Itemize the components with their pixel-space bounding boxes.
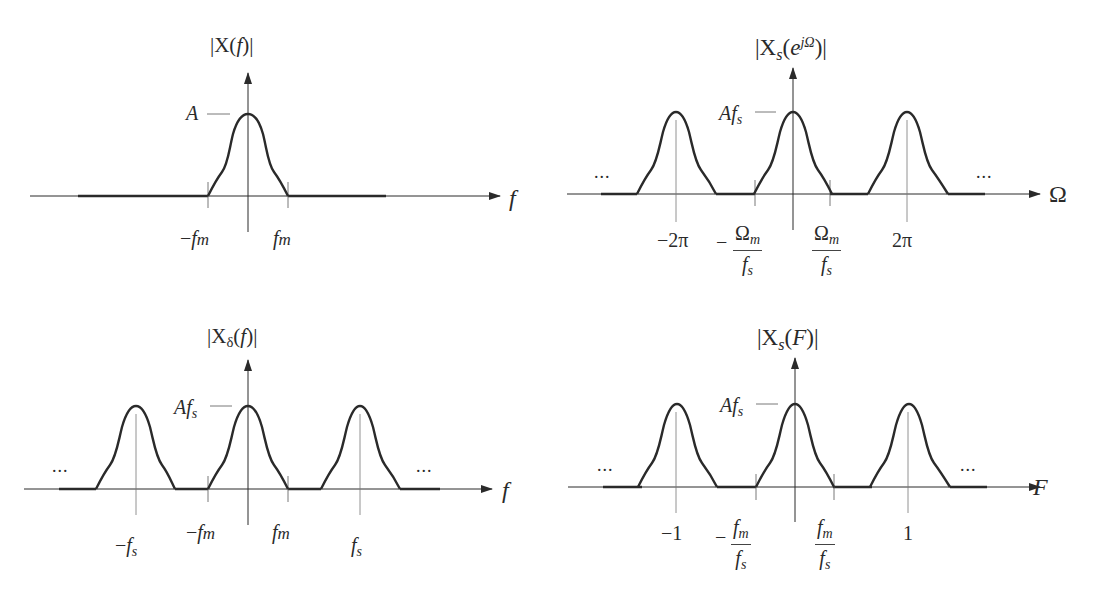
panel4-frac-minus: − [715,527,726,547]
panel2-title: |Xs(ejΩ)| [755,35,827,63]
panel3-tick-neg-fs: −fs [115,535,137,559]
spectra-diagram [0,0,1095,593]
panel3-peak-label: Afs [174,397,197,421]
panel-xdelta-f [24,360,492,525]
panel1-tick-neg-fm: −fm [180,228,209,248]
panel4-x-axis-label: F [1033,475,1048,499]
panel3-title: |Xδ(f)| [207,326,257,350]
panel1-tick-fm: fm [273,228,291,248]
panel3-tick-fm: fm [272,522,290,542]
panel2-ellipsis-right: ... [976,163,993,181]
panel2-x-axis-label: Ω [1049,182,1067,206]
panel2-tick-neg-omega-m-over-fs: Ωm fs [733,223,762,279]
panel4-tick-neg-fm-over-fs: fm fs [731,517,751,573]
panel4-ellipsis-right: ... [960,456,977,474]
panel-x-f [30,73,500,232]
panel3-tick-neg-fm: −fm [186,522,215,542]
panel4-title: |Xs(F)| [757,326,818,353]
panel4-tick-fm-over-fs: fm fs [815,517,835,573]
panel2-tick-2pi: 2π [892,230,912,250]
panel3-tick-fs: fs [351,535,362,559]
panel2-ellipsis-left: ... [594,163,611,181]
panel2-tick-neg-2pi: −2π [657,230,688,250]
panel4-tick-1: 1 [903,523,913,543]
panel3-ellipsis-right: ... [416,457,433,475]
panel-xs-F [568,358,1040,522]
panel3-x-axis-label: f [502,478,509,502]
panel3-ellipsis-left: ... [52,457,69,475]
panel1-x-axis-label: f [509,186,516,210]
panel1-title: |X(f)| [210,35,253,56]
spectrum-pulses [638,404,950,487]
panel2-frac-minus: − [716,232,727,252]
panel4-tick-neg-1: −1 [661,523,682,543]
panel2-peak-label: Afs [719,103,742,127]
panel1-peak-label: A [186,103,198,123]
panel4-ellipsis-left: ... [597,456,614,474]
panel2-tick-omega-m-over-fs: Ωm fs [812,223,841,279]
panel4-peak-label: Afs [720,395,743,419]
panel-xs-ejomega [567,68,1040,230]
